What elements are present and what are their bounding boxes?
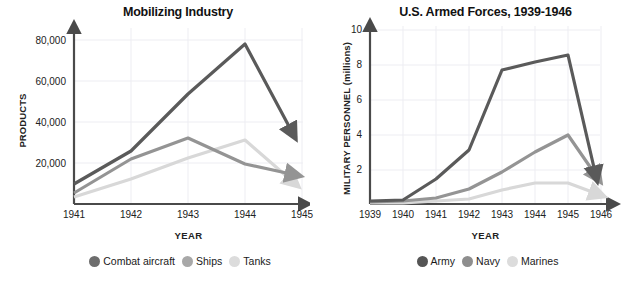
- gridlines-vertical-left: [131, 28, 302, 204]
- legend-swatch-army-icon: [417, 256, 428, 267]
- series-line-navy: [370, 135, 595, 202]
- legend-item-army[interactable]: Army: [417, 256, 456, 267]
- x-axis-label-left: YEAR: [74, 230, 303, 241]
- dual-line-chart-figure: Mobilizing Industry PRODUCTS 80,000 60,0…: [0, 0, 621, 287]
- legend-label-combat-aircraft: Combat aircraft: [103, 256, 175, 267]
- legend-left: Combat aircraft Ships Tanks: [60, 256, 300, 267]
- gridlines-vertical-right: [403, 26, 601, 204]
- gridlines-horizontal-right: [370, 30, 600, 170]
- x-tick-1946: 1946: [582, 209, 620, 220]
- legend-item-marines[interactable]: Marines: [507, 256, 558, 267]
- legend-label-army: Army: [431, 256, 456, 267]
- x-axis-label-right: YEAR: [370, 230, 601, 241]
- legend-item-ships[interactable]: Ships: [182, 256, 222, 267]
- legend-label-marines: Marines: [521, 256, 558, 267]
- chart-panel-us-armed-forces: U.S. Armed Forces, 1939-1946 MILITARY PE…: [310, 0, 621, 287]
- legend-item-navy[interactable]: Navy: [462, 256, 500, 267]
- x-tick-1941: 1941: [50, 209, 98, 220]
- plot-area-right: [310, 0, 621, 287]
- plot-area-left: [0, 0, 310, 287]
- series-line-army: [370, 55, 595, 201]
- legend-right: Army Navy Marines: [385, 256, 590, 267]
- legend-swatch-combat-aircraft-icon: [89, 256, 100, 267]
- x-tick-1944: 1944: [221, 209, 269, 220]
- x-tick-1943: 1943: [164, 209, 212, 220]
- x-tick-1942: 1942: [107, 209, 155, 220]
- legend-item-combat-aircraft[interactable]: Combat aircraft: [89, 256, 175, 267]
- legend-swatch-tanks-icon: [229, 256, 240, 267]
- legend-label-tanks: Tanks: [243, 256, 270, 267]
- chart-panel-mobilizing-industry: Mobilizing Industry PRODUCTS 80,000 60,0…: [0, 0, 310, 287]
- legend-swatch-navy-icon: [462, 256, 473, 267]
- legend-item-tanks[interactable]: Tanks: [229, 256, 270, 267]
- legend-swatch-marines-icon: [507, 256, 518, 267]
- legend-label-navy: Navy: [476, 256, 500, 267]
- legend-swatch-ships-icon: [182, 256, 193, 267]
- legend-label-ships: Ships: [196, 256, 222, 267]
